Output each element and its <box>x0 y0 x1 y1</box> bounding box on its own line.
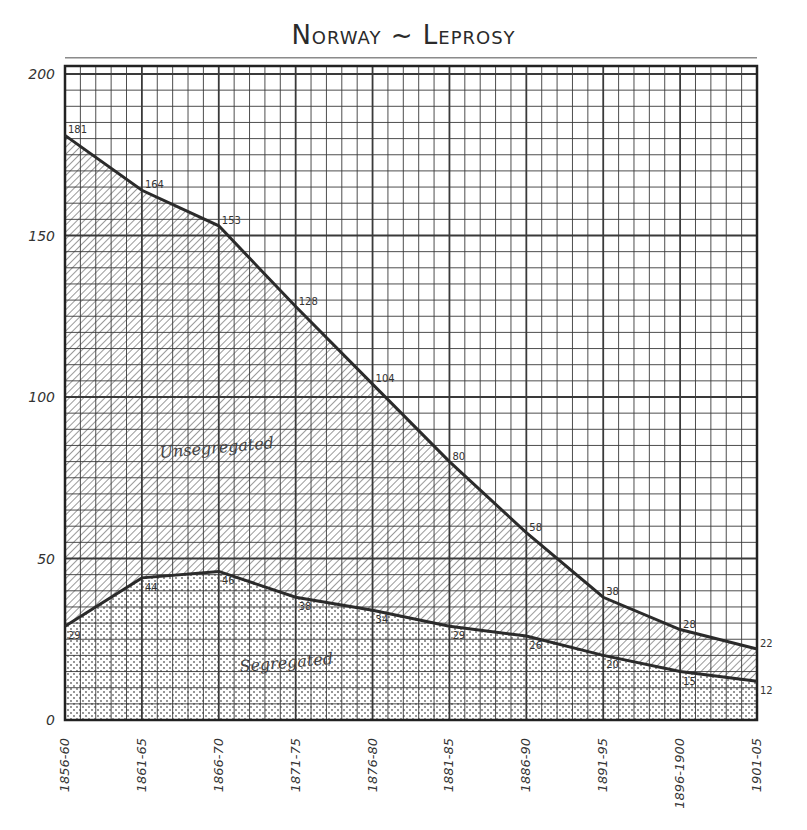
total-value-label: 58 <box>529 522 542 533</box>
total-value-label: 38 <box>606 586 619 597</box>
x-tick-label: 1896-1900 <box>672 738 687 809</box>
x-tick-label: 1891-95 <box>595 738 610 792</box>
chart-canvas: 0501001502001856-601861-651866-701871-75… <box>0 0 807 830</box>
x-tick-label: 1876-80 <box>365 738 380 792</box>
segregated-value-label: 29 <box>452 630 465 641</box>
segregated-value-label: 44 <box>145 582 158 593</box>
segregated-value-label: 20 <box>606 659 619 670</box>
y-tick-label: 100 <box>28 389 55 405</box>
segregated-value-label: 26 <box>529 640 542 651</box>
total-value-label: 181 <box>68 124 87 135</box>
segregated-value-label: 15 <box>683 676 696 687</box>
y-tick-label: 200 <box>28 66 55 82</box>
x-tick-label: 1861-65 <box>134 738 149 792</box>
x-tick-label: 1856-60 <box>57 738 72 792</box>
y-tick-label: 50 <box>37 551 55 567</box>
total-value-label: 28 <box>683 619 696 630</box>
segregated-value-label: 34 <box>376 614 389 625</box>
total-value-label: 164 <box>145 179 164 190</box>
total-value-label: 22 <box>760 638 773 649</box>
x-tick-label: 1866-70 <box>211 738 226 792</box>
segregated-value-label: 46 <box>222 575 235 586</box>
x-tick-label: 1901-05 <box>749 738 764 792</box>
chart-areas <box>65 135 757 720</box>
total-value-label: 153 <box>222 215 241 226</box>
total-value-label: 128 <box>299 296 318 307</box>
x-tick-label: 1871-75 <box>288 738 303 792</box>
total-value-label: 104 <box>376 373 395 384</box>
segregated-value-label: 38 <box>299 601 312 612</box>
segregated-value-label: 12 <box>760 685 773 696</box>
x-tick-label: 1881-85 <box>441 738 456 792</box>
y-tick-label: 150 <box>28 228 55 244</box>
x-tick-label: 1886-90 <box>518 738 533 792</box>
total-value-label: 80 <box>452 451 465 462</box>
segregated-value-label: 29 <box>68 630 81 641</box>
y-tick-label: 0 <box>46 712 55 728</box>
